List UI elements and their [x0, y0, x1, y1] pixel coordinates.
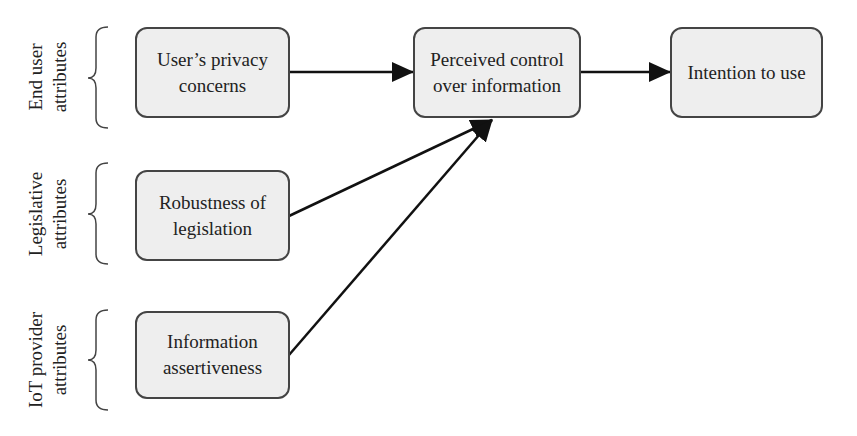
node-text: User’s privacy: [157, 47, 268, 73]
group-label-legislative: Legislative attributes: [24, 159, 72, 269]
node-text: legislation: [159, 216, 266, 242]
brace-end-user: [88, 27, 108, 128]
group-label-line: IoT provider: [24, 305, 48, 415]
node-information-assertiveness: Informationassertiveness: [135, 311, 290, 399]
node-text: over information: [430, 73, 563, 99]
node-perceived-control: Perceived controlover information: [413, 27, 581, 118]
group-label-iot-provider: IoT provider attributes: [24, 305, 72, 415]
node-privacy-concerns: User’s privacyconcerns: [135, 27, 290, 118]
group-label-line: End user: [24, 22, 48, 132]
node-intention-to-use: Intention to use: [670, 27, 823, 118]
node-text: Robustness of: [159, 190, 266, 216]
node-text: Perceived control: [430, 47, 563, 73]
edge-legislation-to-control: [289, 120, 492, 216]
group-label-line: attributes: [48, 305, 72, 415]
brace-iot-provider: [88, 310, 108, 410]
node-text: concerns: [157, 73, 268, 99]
group-label-line: attributes: [48, 159, 72, 269]
group-label-end-user: End user attributes: [24, 22, 72, 132]
brace-legislative: [88, 163, 108, 264]
node-text: assertiveness: [163, 355, 262, 381]
group-label-line: attributes: [48, 22, 72, 132]
node-text: Intention to use: [687, 60, 805, 86]
group-label-line: Legislative: [24, 159, 48, 269]
node-text: Information: [163, 329, 262, 355]
edge-assertiveness-to-control: [289, 120, 492, 355]
node-robustness-of-legislation: Robustness oflegislation: [135, 170, 290, 261]
